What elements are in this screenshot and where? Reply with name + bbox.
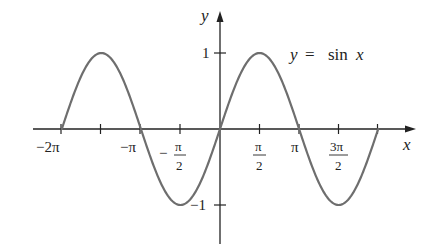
y-tick-label-1: 1 bbox=[202, 45, 210, 61]
x-tick-label-negpi: −π bbox=[120, 139, 136, 155]
sine-graph: y x 1 −1 −2π −π − π 2 π 2 π 3π 2 y = sin… bbox=[0, 0, 440, 247]
x-tick-label-halfpi: π 2 bbox=[253, 139, 266, 173]
svg-text:sin: sin bbox=[328, 45, 348, 64]
svg-text:y: y bbox=[288, 45, 298, 64]
x-axis-label: x bbox=[402, 135, 411, 154]
x-tick-label-neghalfpi: − π 2 bbox=[159, 139, 186, 173]
equation-annotation: y = sin x bbox=[288, 45, 364, 64]
svg-text:−: − bbox=[159, 145, 167, 161]
x-tick-label-pi: π bbox=[291, 139, 299, 155]
svg-text:π: π bbox=[175, 139, 182, 154]
svg-text:2: 2 bbox=[256, 158, 263, 173]
svg-text:2: 2 bbox=[176, 158, 183, 173]
svg-text:=: = bbox=[305, 45, 315, 64]
x-axis-arrow-icon bbox=[405, 126, 416, 133]
svg-text:2: 2 bbox=[335, 158, 342, 173]
y-tick-label-neg1: −1 bbox=[190, 197, 206, 213]
svg-text:3π: 3π bbox=[330, 139, 344, 154]
y-axis-label: y bbox=[199, 6, 209, 25]
x-tick-label-neg2pi: −2π bbox=[36, 139, 60, 155]
svg-text:x: x bbox=[355, 45, 364, 64]
x-tick-label-3halfpi: 3π 2 bbox=[329, 139, 348, 173]
svg-text:π: π bbox=[255, 139, 262, 154]
y-axis-arrow-icon bbox=[217, 11, 224, 22]
